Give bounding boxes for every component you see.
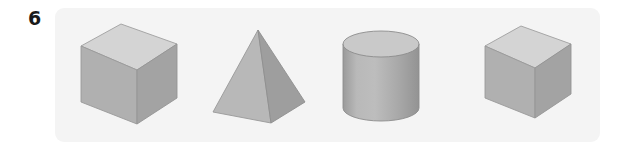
shape-cylinder [331,8,451,142]
pyramid-drawing [201,8,321,142]
cylinder-drawing [331,8,451,142]
shapes-panel [55,8,600,142]
cube-1-drawing [73,8,193,142]
shape-cube-2 [459,8,584,142]
worksheet-exercise: 6 [0,0,625,156]
cylinder-top-face [343,31,419,57]
cube-2-drawing [459,8,584,142]
shape-pyramid [201,8,321,142]
shape-cube-1 [73,8,193,142]
question-number: 6 [28,9,41,28]
